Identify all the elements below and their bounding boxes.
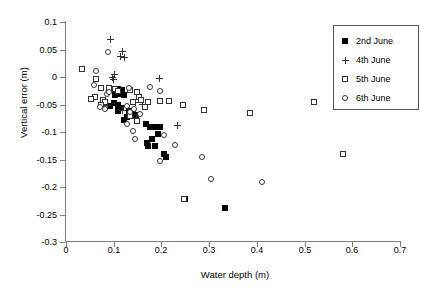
data-point	[124, 121, 130, 127]
data-point	[156, 75, 163, 82]
y-tick-label: 0.05	[39, 46, 57, 55]
x-tick-label: 0.1	[94, 246, 134, 255]
y-tick	[60, 215, 65, 216]
data-point	[208, 176, 214, 182]
data-point	[138, 97, 144, 103]
data-point	[247, 110, 253, 116]
data-point	[115, 88, 121, 94]
data-point	[157, 98, 163, 104]
y-tick	[60, 132, 65, 133]
data-point	[157, 158, 163, 164]
open-square-icon	[340, 74, 350, 84]
data-point	[134, 118, 140, 124]
data-point	[222, 205, 228, 211]
data-point	[93, 68, 99, 74]
legend-label: 4th June	[356, 56, 391, 65]
x-tick-label: 0	[46, 246, 86, 255]
data-point	[130, 99, 136, 105]
x-tick-label: 0.3	[189, 246, 229, 255]
data-point	[161, 132, 167, 138]
y-axis-title: Vertical error (m)	[18, 28, 29, 178]
data-point	[163, 154, 169, 160]
y-tick	[60, 50, 65, 51]
data-point	[91, 82, 97, 88]
data-point	[155, 131, 161, 137]
x-axis-title: Water depth (m)	[100, 269, 370, 280]
legend-label: 5th June	[356, 75, 391, 84]
data-point	[199, 154, 205, 160]
legend-entry: 5th June	[340, 70, 391, 88]
legend-entry: 4th June	[340, 51, 391, 69]
data-point	[174, 122, 181, 129]
x-tick-label: 0.6	[332, 246, 372, 255]
data-point	[145, 143, 151, 149]
data-point	[137, 111, 143, 117]
y-tick-label: -0.2	[41, 183, 57, 192]
data-point	[79, 66, 85, 72]
x-tick-label: 0.2	[141, 246, 181, 255]
y-tick-label: -0.1	[41, 128, 57, 137]
data-point	[124, 103, 130, 109]
data-point	[88, 96, 94, 102]
data-point	[181, 196, 187, 202]
data-point	[130, 128, 136, 134]
y-tick-label: -0.05	[36, 101, 57, 110]
data-point	[147, 84, 153, 90]
data-point	[102, 106, 108, 112]
y-tick-label: -0.15	[36, 156, 57, 165]
legend-entry: 6th June	[340, 89, 391, 107]
x-tick-label: 0.7	[380, 246, 420, 255]
y-tick	[60, 160, 65, 161]
data-point	[105, 49, 111, 55]
x-tick-label: 0.5	[285, 246, 325, 255]
plus-icon	[340, 55, 350, 65]
filled-square-icon	[340, 36, 350, 46]
x-tick-label: 0.4	[237, 246, 277, 255]
legend-entry: 2nd June	[340, 32, 393, 50]
data-point	[157, 124, 163, 130]
legend-label: 2nd June	[356, 37, 393, 46]
y-tick-label: 0.1	[44, 18, 57, 27]
y-tick	[60, 242, 65, 243]
scatter-chart-figure: 0.10.050-0.05-0.1-0.15-0.2-0.25-0.300.10…	[0, 0, 421, 295]
open-circle-icon	[340, 93, 350, 103]
data-point	[172, 142, 178, 148]
data-point	[126, 85, 132, 91]
y-tick-label: -0.25	[36, 211, 57, 220]
data-point	[121, 92, 127, 98]
data-point	[157, 88, 163, 94]
data-point	[180, 102, 186, 108]
legend-label: 6th June	[356, 94, 391, 103]
data-point	[201, 107, 207, 113]
data-point	[340, 151, 346, 157]
data-point	[311, 99, 317, 105]
data-point	[166, 98, 172, 104]
data-point	[142, 104, 148, 110]
data-point	[107, 36, 114, 43]
data-point	[98, 85, 104, 91]
data-point	[121, 54, 128, 61]
y-tick	[60, 77, 65, 78]
data-point	[132, 136, 138, 142]
y-tick-label: 0	[52, 73, 57, 82]
data-point	[152, 143, 158, 149]
data-point	[110, 76, 117, 83]
chart-legend: 2nd June4th June5th June6th June	[333, 25, 419, 110]
y-tick	[60, 187, 65, 188]
y-tick	[60, 22, 65, 23]
data-point	[259, 179, 265, 185]
y-tick	[60, 105, 65, 106]
